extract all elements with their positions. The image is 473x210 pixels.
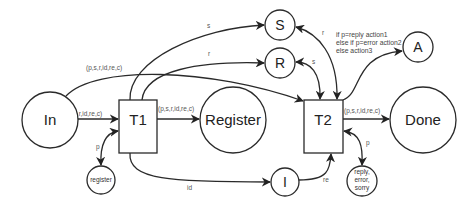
place-reply-line-3: sorry <box>355 184 370 192</box>
arc-t1-register-small <box>101 131 118 165</box>
guard-line-1: if p=reply action1 <box>336 31 388 39</box>
arc-label-in-t2: (p,s,r,id,re,c) <box>86 64 122 72</box>
arc-label-t1-r: r <box>208 50 211 57</box>
arc-label-t2-reply: p <box>366 139 370 147</box>
place-i-label: I <box>283 174 287 190</box>
place-register-label: Register <box>205 111 261 128</box>
place-i: I <box>271 168 299 196</box>
arc-t2-to-a <box>343 51 402 100</box>
place-reply: reply, error, sorry <box>347 166 377 196</box>
guard-line-2: else if p=error action2 <box>336 39 402 47</box>
arc-label-t1-register-small: p <box>96 143 100 151</box>
petri-net-diagram: (p,s,r,id,re,c) s r (p,s,r,id,re,c) (p,s… <box>0 0 473 210</box>
guard-line-3: else action3 <box>336 47 372 54</box>
place-done: Done <box>390 87 456 153</box>
place-register-small-label: register <box>90 176 113 184</box>
place-register-small: register <box>87 166 115 194</box>
arc-label-t1-register: (p,s,r,id,re,c) <box>158 105 194 113</box>
arc-in-to-t2 <box>66 74 303 101</box>
transition-t2: T2 <box>304 100 343 153</box>
arc-label-t2-done: (p,s,r,id,re,c) <box>344 107 380 115</box>
arc-t1-to-i <box>130 153 270 182</box>
place-a: A <box>403 32 433 62</box>
place-a-label: A <box>413 39 423 55</box>
place-in: In <box>22 92 78 148</box>
place-r: R <box>265 48 295 78</box>
arc-t2-reply <box>344 131 362 165</box>
transition-t2-label: T2 <box>314 111 332 128</box>
arc-label-t1-s: s <box>207 22 211 29</box>
place-r-label: R <box>275 55 285 71</box>
place-s: S <box>265 10 295 40</box>
place-reply-line-1: reply, <box>354 168 370 176</box>
transition-t1: T1 <box>119 100 157 153</box>
arc-r-t2 <box>296 62 320 99</box>
transition-t1-label: T1 <box>129 111 147 128</box>
arc-label-r-t2: s <box>312 58 316 65</box>
place-s-label: S <box>275 17 284 33</box>
arc-label-s-t2: r <box>322 29 325 36</box>
guard-annotation: if p=reply action1 else if p=error actio… <box>336 31 402 54</box>
place-reply-line-2: error, <box>354 176 369 183</box>
arc-label-t1-i: id <box>187 184 192 191</box>
arc-label-i-t2: re <box>323 176 329 183</box>
place-in-label: In <box>44 111 57 128</box>
place-done-label: Done <box>405 111 441 128</box>
place-register: Register <box>200 87 266 153</box>
